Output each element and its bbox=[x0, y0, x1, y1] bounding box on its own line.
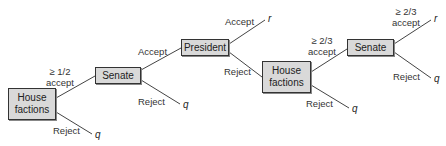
threshold-text: ≥ 2/3 bbox=[311, 35, 332, 46]
edge-label-president-accept: Accept bbox=[225, 16, 254, 27]
node-label: factions bbox=[269, 77, 303, 88]
edge-label-house2-accept: ≥ 2/3accept bbox=[308, 35, 336, 57]
outcome-q: q bbox=[434, 73, 440, 84]
node-label: President bbox=[184, 42, 226, 54]
node-label: factions bbox=[15, 104, 49, 115]
edge-label-house1-reject: Reject bbox=[53, 125, 80, 136]
node-senate-1: Senate bbox=[95, 67, 141, 84]
outcome-q: q bbox=[352, 103, 358, 114]
node-label: Senate bbox=[355, 42, 387, 54]
outcome-r: r bbox=[434, 13, 437, 24]
node-label: Senate bbox=[102, 70, 134, 82]
outcome-r: r bbox=[268, 13, 271, 24]
accept-text: accept bbox=[46, 77, 74, 88]
accept-text: accept bbox=[392, 17, 420, 28]
outcome-q: q bbox=[183, 99, 189, 110]
threshold-text: ≥ 2/3 bbox=[395, 6, 416, 17]
threshold-text: ≥ 1/2 bbox=[49, 66, 70, 77]
edge-label-house2-reject: Reject bbox=[306, 98, 333, 109]
accept-text: accept bbox=[308, 46, 336, 57]
node-label: House bbox=[272, 65, 301, 76]
edge-label-president-reject: Reject bbox=[224, 66, 251, 77]
node-house-factions-1: Housefactions bbox=[8, 88, 56, 120]
edge-label-senate2-accept: ≥ 2/3accept bbox=[392, 6, 420, 28]
node-label: House bbox=[18, 92, 47, 103]
node-president: President bbox=[181, 39, 229, 56]
node-senate-2: Senate bbox=[347, 39, 394, 56]
outcome-q: q bbox=[95, 129, 101, 140]
node-house-factions-2: Housefactions bbox=[262, 61, 311, 93]
edge-label-senate1-reject: Reject bbox=[138, 96, 165, 107]
edge-label-house1-accept: ≥ 1/2accept bbox=[46, 66, 74, 88]
edge-label-senate1-accept: Accept bbox=[138, 46, 167, 57]
edge-label-senate2-reject: Reject bbox=[393, 71, 420, 82]
